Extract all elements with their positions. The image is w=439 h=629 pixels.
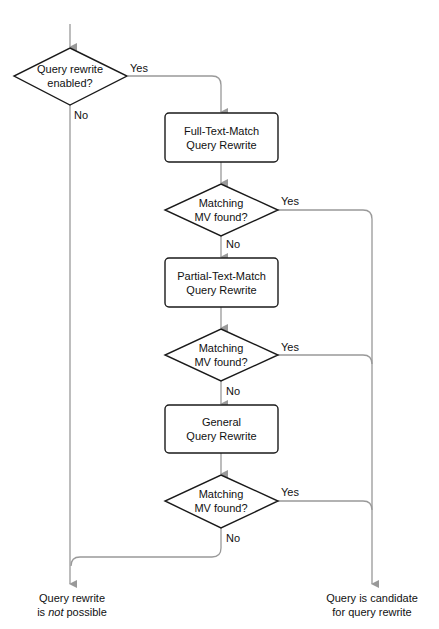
terminal-candidate-for-rewrite: Query is candidate for query rewrite xyxy=(302,591,439,619)
node-text-line1: Partial-Text-Match xyxy=(177,269,266,283)
edge-label-enabled-yes: Yes xyxy=(130,62,148,75)
node-text-line1: Matching xyxy=(194,196,247,210)
process-full-text-match: Full-Text-MatchQuery Rewrite xyxy=(165,113,278,162)
terminal-text-line2: for query rewrite xyxy=(302,605,439,619)
edge-label-d2-no: No xyxy=(226,385,240,398)
node-text-line2: enabled? xyxy=(37,76,103,90)
edge-label-d3-no: No xyxy=(226,532,240,545)
terminal-text-line1: Query is candidate xyxy=(302,591,439,605)
terminal-text-emphasis: not xyxy=(48,606,63,618)
edge-label-enabled-no: No xyxy=(74,109,88,122)
node-text-line1: Matching xyxy=(194,487,247,501)
node-text-line1: Matching xyxy=(194,341,247,355)
flowchart-canvas xyxy=(0,0,439,629)
edge-label-d1-yes: Yes xyxy=(281,195,299,208)
terminal-text-post: possible xyxy=(63,606,106,618)
node-text-line2: Query Rewrite xyxy=(184,138,259,152)
decision-matching-mv-3: MatchingMV found? xyxy=(171,487,271,515)
terminal-text-pre: is xyxy=(37,606,48,618)
edge-label-d2-yes: Yes xyxy=(281,341,299,354)
connector-d1-yes xyxy=(278,210,372,584)
decision-query-rewrite-enabled: Query rewriteenabled? xyxy=(20,62,120,90)
connector-d2-yes xyxy=(278,355,372,364)
edge-label-d3-yes: Yes xyxy=(281,486,299,499)
terminal-rewrite-not-possible: Query rewrite is not possible xyxy=(2,591,142,619)
node-text-line1: General xyxy=(186,415,256,429)
node-text-line2: MV found? xyxy=(194,501,247,515)
process-partial-text-match: Partial-Text-MatchQuery Rewrite xyxy=(165,258,278,307)
node-text-line1: Query rewrite xyxy=(37,62,103,76)
decision-matching-mv-2: MatchingMV found? xyxy=(171,341,271,369)
node-text-line2: Query Rewrite xyxy=(186,429,256,443)
node-text-line1: Full-Text-Match xyxy=(184,124,259,138)
edge-label-d1-no: No xyxy=(226,238,240,251)
connector-enabled-yes xyxy=(128,76,221,112)
node-text-line2: MV found? xyxy=(194,355,247,369)
connector-d3-no xyxy=(71,528,221,566)
decision-matching-mv-1: MatchingMV found? xyxy=(171,196,271,224)
connector-d3-yes xyxy=(278,501,372,510)
terminal-text-line1: Query rewrite xyxy=(2,591,142,605)
process-general-query-rewrite: GeneralQuery Rewrite xyxy=(165,405,278,453)
node-text-line2: Query Rewrite xyxy=(177,283,266,297)
node-text-line2: MV found? xyxy=(194,210,247,224)
